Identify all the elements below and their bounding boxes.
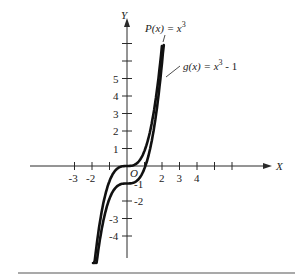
p-curve-label: P(x) = x3 — [144, 20, 186, 35]
x-tick-label: -2 — [86, 172, 95, 184]
y-tick-label: 3 — [113, 108, 119, 120]
y-tick-label: -2 — [134, 195, 143, 207]
x-tick-label: 3 — [177, 172, 183, 184]
p-label-leader — [163, 35, 165, 42]
y-axis-label: Y — [121, 9, 129, 21]
y-tick-label: 1 — [113, 143, 119, 155]
x-axis-label: X — [275, 160, 284, 172]
y-tick-label: -3 — [109, 213, 119, 225]
x-tick-label: 4 — [194, 172, 200, 184]
x-tick-label: 2 — [159, 172, 165, 184]
x-tick-label: -3 — [69, 172, 79, 184]
g-curve-label: g(x) = x3 - 1 — [183, 58, 237, 73]
graph-figure: -3-2234-4-3-2-112345 Y X O P(x) = x3 g(x… — [0, 0, 295, 280]
g-label-leader — [166, 66, 180, 77]
x-axis-arrow-icon — [263, 163, 272, 169]
curve-g-x-cubed-minus-1 — [96, 45, 164, 263]
y-tick-label: 5 — [113, 73, 119, 85]
y-tick-label: 4 — [113, 90, 119, 102]
y-tick-label: -4 — [109, 230, 119, 242]
y-tick-label: 2 — [113, 125, 119, 137]
tick-labels: -3-2234-4-3-2-112345 — [69, 73, 201, 243]
origin-label: O — [130, 167, 138, 179]
